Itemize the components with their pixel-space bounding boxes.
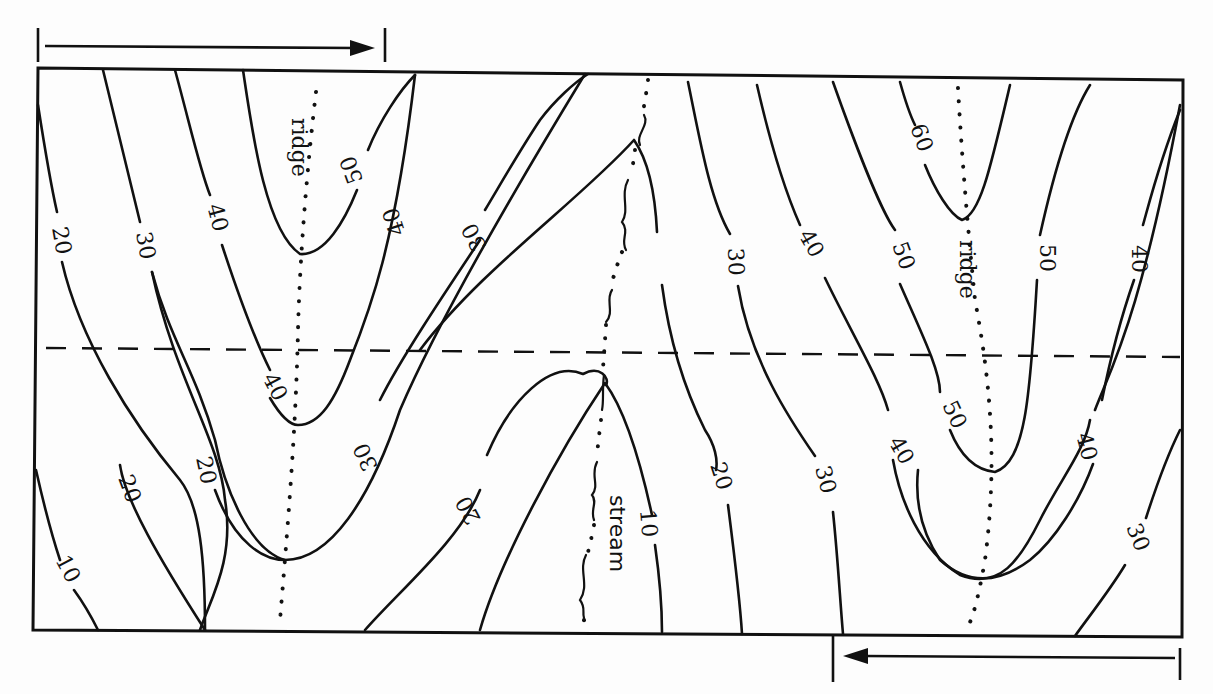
contour-label: 30 [810, 463, 841, 497]
topographic-map: 20 30 40 50 40 30 40 30 20 10 20 20 30 4… [0, 0, 1213, 694]
stream-dots [612, 252, 622, 282]
arrow-shaft [45, 46, 355, 48]
contour-label: 50 [887, 238, 920, 273]
stream-label: stream [605, 495, 630, 572]
stream-wiggle [639, 115, 645, 145]
contour-label: 20 [191, 454, 221, 487]
contour-label: 40 [884, 432, 920, 469]
contour-label: 30 [456, 219, 491, 255]
top-direction-arrow [38, 28, 385, 62]
arrowhead-left-icon [843, 648, 868, 664]
contour-10-left [36, 470, 98, 630]
contour-20-stream-upper [480, 383, 662, 632]
contour-label: 50 [335, 153, 368, 188]
stream-wiggle [580, 555, 586, 618]
stream-wiggle [602, 375, 604, 410]
bottom-direction-arrow [833, 636, 1180, 682]
stream-dots [630, 150, 635, 175]
contour-label: 40 [794, 225, 830, 262]
contour-label: 60 [905, 120, 938, 155]
contour-label: 10 [635, 508, 662, 538]
stream-wiggle [592, 462, 597, 520]
contour-label: 30 [131, 230, 160, 262]
contour-label: 40 [1127, 245, 1152, 273]
contour-label: 20 [113, 471, 146, 506]
profile-line [46, 348, 1180, 357]
ridge-label-left: ridge [287, 118, 312, 177]
contour-40-right-valley [757, 85, 1180, 579]
stream-wiggle [606, 290, 612, 322]
ridge-line-right [958, 88, 992, 626]
ridge-label-right: ridge [955, 240, 980, 299]
contour-label: 40 [378, 205, 410, 239]
contour-label: 40 [202, 201, 233, 235]
arrowhead-right-icon [350, 40, 375, 56]
contour-30-right-valley [688, 82, 843, 634]
contour-label: 40 [258, 369, 293, 405]
stream-dots [588, 525, 594, 552]
contour-label: 20 [450, 492, 485, 528]
contour-label: 50 [937, 397, 971, 433]
contour-label: 50 [1035, 244, 1060, 272]
contour-label: 10 [51, 551, 86, 587]
contour-30-stream-upper [420, 140, 657, 350]
stream-wiggle [622, 180, 628, 250]
contour-label: 30 [1121, 520, 1155, 555]
contour-label: 20 [705, 459, 737, 493]
arrow-shaft [865, 656, 1175, 658]
contour-label: 30 [723, 247, 749, 276]
contour-label: 20 [47, 225, 76, 257]
stream-dots [603, 325, 606, 368]
stream-dots [597, 420, 601, 455]
stream-dots [642, 80, 648, 115]
